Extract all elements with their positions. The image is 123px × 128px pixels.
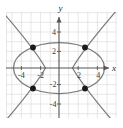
y-axis-arrow bbox=[56, 17, 61, 23]
y-tick-label-pos2: 2 bbox=[52, 47, 56, 56]
y-tick-label-neg4: -4 bbox=[50, 100, 57, 109]
x-tick-label-pos4: 4 bbox=[96, 71, 100, 80]
y-tick-label-neg2: -2 bbox=[50, 80, 57, 89]
point-lower-right bbox=[82, 86, 88, 92]
coordinate-plane-svg: -4 -2 2 4 4 2 -2 -4 x y bbox=[0, 0, 123, 128]
y-axis-label: y bbox=[58, 3, 63, 13]
point-upper-right bbox=[82, 45, 88, 51]
x-tick-label-neg2: -2 bbox=[37, 71, 44, 80]
x-axis-label: x bbox=[111, 63, 116, 73]
grid-lines bbox=[6, 12, 117, 118]
point-lower-left bbox=[30, 86, 36, 92]
x-axis-arrow bbox=[104, 65, 110, 70]
x-tick-label-neg4: -4 bbox=[18, 71, 25, 80]
point-upper-left bbox=[30, 45, 36, 51]
graph-figure: -4 -2 2 4 4 2 -2 -4 x y bbox=[0, 0, 123, 128]
x-tick-label-pos2: 2 bbox=[77, 71, 81, 80]
y-tick-label-pos4: 4 bbox=[52, 28, 56, 37]
